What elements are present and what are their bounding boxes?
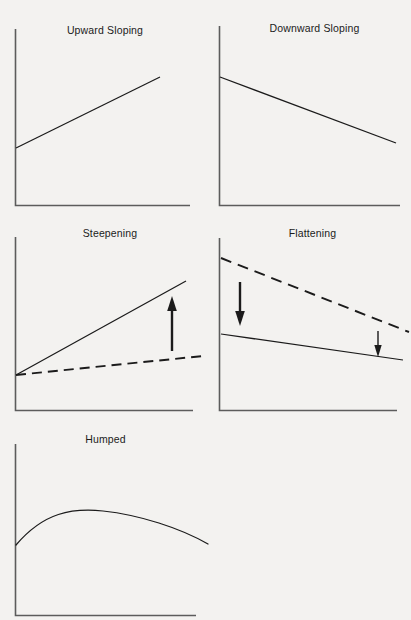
panel-downward-sloping-curve xyxy=(220,77,396,143)
panel-title-humped: Humped xyxy=(82,433,129,446)
panel-humped-curve xyxy=(16,510,208,545)
panel-humped xyxy=(16,444,209,616)
down-arrow-thick-head xyxy=(235,311,245,326)
panel-steepening-axes xyxy=(16,237,194,411)
panel-flattening-dashed-curve xyxy=(221,258,409,332)
panel-title-flattening: Flattening xyxy=(282,227,343,240)
panel-title-downward-sloping: Downward Sloping xyxy=(256,22,373,35)
panel-downward-sloping-axes xyxy=(220,26,401,206)
yield-curve-shapes-canvas xyxy=(0,0,411,620)
panel-flattening-axes xyxy=(220,238,398,411)
up-arrow-head xyxy=(167,296,177,311)
panel-flattening-long-end-down-arrow xyxy=(374,331,381,357)
yield-curve-shapes-figure: Upward Sloping Downward Sloping Steepeni… xyxy=(0,0,411,620)
panel-steepening-up-arrow xyxy=(167,296,177,351)
down-arrow-thin-head xyxy=(374,345,381,357)
panel-title-steepening: Steepening xyxy=(76,227,144,240)
panel-upward-sloping-curve xyxy=(16,77,160,148)
panel-steepening xyxy=(16,237,204,411)
panel-downward-sloping xyxy=(220,26,401,206)
panel-upward-sloping-axes xyxy=(16,29,191,206)
panel-flattening-short-end-down-arrow xyxy=(235,282,245,326)
panel-flattening xyxy=(220,238,410,411)
panel-title-upward-sloping: Upward Sloping xyxy=(58,24,152,37)
panel-humped-axes xyxy=(16,444,197,616)
panel-upward-sloping xyxy=(16,29,191,206)
